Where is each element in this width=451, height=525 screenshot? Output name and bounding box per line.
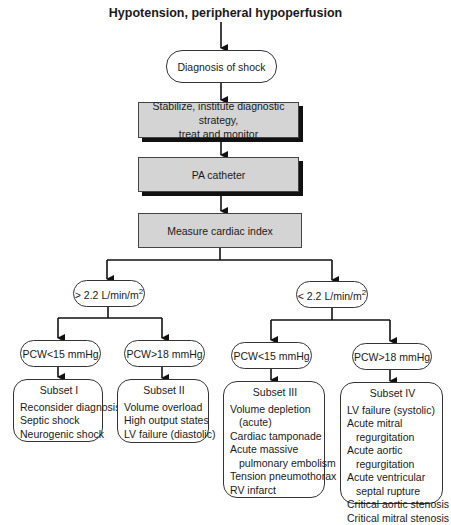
subset-title: Subset I — [20, 384, 98, 398]
subset-iv-box: Subset IV LV failure (systolic) Acute mi… — [340, 382, 443, 504]
subset-title: Subset III — [230, 386, 320, 400]
subset-item: LV failure (systolic) — [347, 404, 438, 418]
subset-item: Critical mitral stenosis — [347, 512, 438, 525]
subset-item: (acute) — [230, 416, 320, 430]
pcw-high-right-label: PCW>18 mmHg — [354, 351, 430, 363]
stabilize-label-line2: treat and monitor — [139, 127, 298, 141]
measure-label: Measure cardiac index — [167, 224, 273, 238]
pcw-high-left-label: PCW>18 mmHg — [126, 348, 202, 360]
subset-item: Reconsider diagnosis — [20, 401, 98, 415]
subset-item: Septic shock — [20, 414, 98, 428]
pa-catheter-node: PA catheter — [138, 157, 299, 192]
diagnosis-label: Diagnosis of shock — [177, 61, 265, 73]
subset-ii-box: Subset II Volume overload High output st… — [117, 379, 209, 443]
subset-title: Subset IV — [347, 387, 438, 401]
ci-high-label: > 2.2 L/min/m2 — [75, 287, 143, 301]
pcw-low-right-label: PCW<15 mmHg — [233, 350, 309, 362]
subset-item: Acute aortic — [347, 444, 438, 458]
stabilize-label-line1: Stabilize, institute diagnostic strategy… — [139, 99, 298, 127]
subset-iii-box: Subset III Volume depletion (acute) Card… — [223, 381, 325, 498]
pcw-low-left-node: PCW<15 mmHg — [20, 340, 101, 367]
diagram-title: Hypotension, peripheral hypoperfusion — [0, 6, 451, 20]
subset-i-box: Subset I Reconsider diagnosis Septic sho… — [13, 379, 103, 442]
subset-item: Volume depletion — [230, 403, 320, 417]
subset-item: Volume overload — [124, 401, 204, 415]
subset-item: Acute ventricular — [347, 471, 438, 485]
subset-item: High output states — [124, 414, 204, 428]
stabilize-node: Stabilize, institute diagnostic strategy… — [138, 102, 299, 138]
subset-item: pulmonary embolism — [230, 457, 320, 471]
subset-item: Critical aortic stenosis — [347, 498, 438, 512]
subset-item: Acute massive — [230, 443, 320, 457]
subset-item: Neurogenic shock — [20, 428, 98, 442]
pcw-high-left-node: PCW>18 mmHg — [124, 340, 205, 367]
ci-low-label: < 2.2 L/min/m2 — [298, 288, 366, 302]
subset-item: regurgitation — [347, 431, 438, 445]
ci-high-node: > 2.2 L/min/m2 — [73, 280, 145, 307]
subset-item: septal rupture — [347, 485, 438, 499]
diagnosis-node: Diagnosis of shock — [166, 50, 277, 83]
pa-catheter-label: PA catheter — [192, 168, 246, 182]
subset-item: LV failure (diastolic) — [124, 428, 204, 442]
pcw-low-left-label: PCW<15 mmHg — [22, 348, 98, 360]
measure-cardiac-index-node: Measure cardiac index — [138, 213, 302, 248]
ci-low-node: < 2.2 L/min/m2 — [296, 281, 368, 308]
subset-title: Subset II — [124, 384, 204, 398]
subset-item: Cardiac tamponade — [230, 430, 320, 444]
subset-item: Tension pneumothorax — [230, 470, 320, 484]
subset-item: regurgitation — [347, 458, 438, 472]
subset-item: Acute mitral — [347, 417, 438, 431]
pcw-low-right-node: PCW<15 mmHg — [231, 342, 312, 369]
subset-item: RV infarct — [230, 484, 320, 498]
pcw-high-right-node: PCW>18 mmHg — [352, 343, 432, 370]
